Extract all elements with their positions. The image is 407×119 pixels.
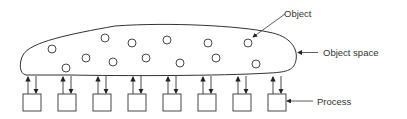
object-circle [82, 54, 90, 62]
object-space-label: Object space [323, 47, 378, 58]
process-box [93, 94, 111, 111]
processes-group [23, 76, 286, 111]
process-box [58, 94, 76, 111]
object-circle [176, 59, 184, 67]
object-label: Object [284, 8, 312, 19]
process-unit [93, 76, 111, 111]
process-unit [23, 76, 41, 111]
process-box [198, 94, 216, 111]
process-unit [163, 76, 181, 111]
object-circle [109, 58, 117, 66]
process-box [23, 94, 41, 111]
process-box [163, 94, 181, 111]
object-circle [142, 54, 150, 62]
process-label: Process [317, 96, 352, 107]
object-leader-line [253, 14, 285, 37]
object-circle [244, 39, 252, 47]
object-circle [252, 60, 260, 68]
object-circle [62, 64, 70, 72]
process-box [268, 94, 286, 111]
object-circle [212, 54, 220, 62]
process-box [128, 94, 146, 111]
object-circle [204, 39, 212, 47]
object-space-diagram: Object Object space Process [0, 0, 407, 119]
process-box [233, 94, 251, 111]
process-unit [198, 76, 216, 111]
object-circle [163, 36, 171, 44]
process-unit [268, 76, 286, 111]
objects-group [48, 34, 260, 72]
process-unit [128, 76, 146, 111]
object-circle [101, 34, 109, 42]
object-circle [48, 45, 56, 53]
object-circle [128, 39, 136, 47]
process-unit [233, 76, 251, 111]
process-unit [58, 76, 76, 111]
